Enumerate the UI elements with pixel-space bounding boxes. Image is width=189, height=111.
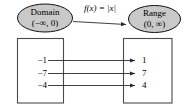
- range-value-1: 1: [142, 56, 154, 65]
- function-expression-label: f(x) = |x|: [74, 4, 126, 13]
- range-value-2: 7: [142, 69, 154, 78]
- domain-value-1: −1: [31, 56, 47, 65]
- range-value-3: 4: [142, 81, 154, 90]
- range-label: Range: [128, 9, 181, 18]
- function-arrow: [73, 22, 126, 25]
- domain-value-3: −4: [31, 81, 47, 90]
- function-mapping-diagram: Domain (−∞, 0) Range (0, ∞) f(x) = |x| −…: [0, 0, 189, 111]
- domain-interval-label: (−∞, 0): [17, 19, 73, 28]
- domain-value-2: −7: [31, 69, 47, 78]
- range-interval-label: (0, ∞): [128, 20, 181, 29]
- domain-label: Domain: [17, 8, 73, 17]
